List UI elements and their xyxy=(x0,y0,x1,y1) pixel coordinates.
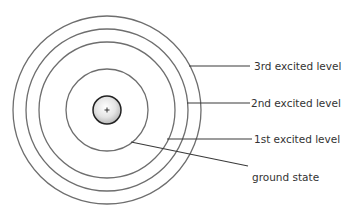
leader-ground-state xyxy=(131,142,248,166)
label-ground-state: ground state xyxy=(252,171,319,183)
atom-diagram: 3rd excited level 2nd excited level 1st … xyxy=(0,0,341,210)
label-1st-excited: 1st excited level xyxy=(254,133,340,145)
label-3rd-excited: 3rd excited level xyxy=(254,60,341,72)
label-2nd-excited: 2nd excited level xyxy=(251,97,341,109)
